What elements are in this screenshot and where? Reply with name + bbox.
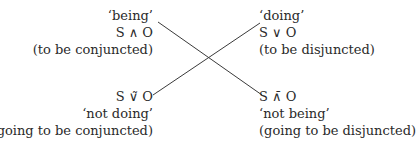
note-going-to-be-disjuncted: (going to be disjuncted) — [259, 122, 416, 139]
formula-conjunction: S ∧ O — [33, 24, 153, 41]
node-not-being: S ∧̄ O ‘not being’ (going to be disjunct… — [259, 88, 416, 139]
gloss-not-doing: ‘not doing’ — [0, 105, 153, 122]
gloss-being: ‘being’ — [33, 7, 153, 24]
edge-not-doing-to-doing — [153, 23, 260, 95]
formula-negated-disjunction: S ∨̃ O — [0, 88, 153, 105]
node-not-doing: S ∨̃ O ‘not doing’ (going to be conjunct… — [0, 88, 153, 139]
note-to-be-conjuncted: (to be conjuncted) — [33, 41, 153, 58]
gloss-not-being: ‘not being’ — [259, 105, 416, 122]
note-going-to-be-conjuncted: (going to be conjuncted) — [0, 122, 153, 139]
note-to-be-disjuncted: (to be disjuncted) — [259, 41, 375, 58]
node-doing: ‘doing’ S ∨ O (to be disjuncted) — [259, 7, 375, 58]
formula-negated-conjunction: S ∧̄ O — [259, 88, 416, 105]
gloss-doing: ‘doing’ — [259, 7, 375, 24]
formula-disjunction: S ∨ O — [259, 24, 375, 41]
edge-being-to-not-being — [158, 22, 262, 95]
node-being: ‘being’ S ∧ O (to be conjuncted) — [33, 7, 153, 58]
